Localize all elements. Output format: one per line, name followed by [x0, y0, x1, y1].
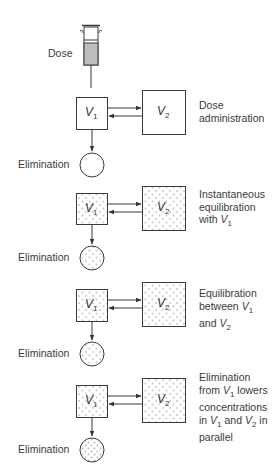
description-elimination: Elimination from V1 lowers concentration… [199, 371, 268, 444]
elimination-label: Elimination [18, 443, 69, 455]
v2-label: V2 [157, 200, 169, 216]
syringe-icon [80, 26, 102, 89]
elimination-label: Elimination [18, 251, 69, 263]
elimination-circle [80, 153, 104, 177]
v2-label: V2 [157, 392, 169, 408]
description-instantaneous: Instantaneous equilibration with V1 [199, 188, 265, 231]
v1-label: V1 [85, 201, 97, 217]
elimination-label: Elimination [18, 347, 69, 359]
description-equilibration: Equilibration between V1 and V2 [199, 287, 257, 335]
v2-label: V2 [157, 104, 169, 120]
dose-label: Dose [48, 47, 73, 59]
description-dose-administration: Dose administration [199, 99, 264, 124]
v1-label: V1 [85, 393, 97, 409]
v1-label: V1 [85, 105, 97, 121]
v2-label: V2 [157, 296, 169, 312]
v1-label: V1 [85, 297, 97, 313]
elimination-label: Elimination [18, 158, 69, 170]
